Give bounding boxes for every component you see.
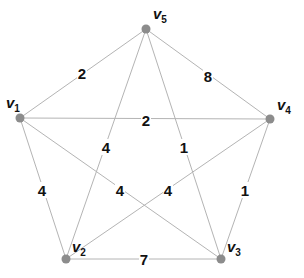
vertex-v1 <box>16 114 25 123</box>
edge-weight-v5-v4: 8 <box>204 68 212 85</box>
edge-weight-v2-v3: 7 <box>140 251 148 268</box>
edge-weight-v5-v2: 4 <box>102 139 111 156</box>
edge-weight-v1-v2: 4 <box>38 182 47 199</box>
edge-weight-v4-v2: 4 <box>164 182 173 199</box>
edge-layer <box>20 29 270 259</box>
edge-weight-v4-v3: 1 <box>241 182 249 199</box>
edge-weight-v1-v3: 4 <box>116 182 125 199</box>
vertex-layer <box>16 25 275 264</box>
vertex-label-layer: v1v2v3v4v5 <box>6 5 291 258</box>
weight-label-layer: 2824144417 <box>37 65 250 268</box>
vertex-label-v4: v4 <box>277 96 291 116</box>
vertex-label-v5: v5 <box>153 5 167 25</box>
vertex-v3 <box>217 255 226 264</box>
vertex-v4 <box>266 115 275 124</box>
vertex-v5 <box>142 25 151 34</box>
edge-weight-v1-v5: 2 <box>78 65 86 82</box>
vertex-label-v2: v2 <box>72 238 86 258</box>
vertex-label-v3: v3 <box>227 238 241 258</box>
weighted-graph: 2824144417 v1v2v3v4v5 <box>0 0 304 278</box>
edge-weight-v5-v3: 1 <box>180 139 188 156</box>
edge-weight-v1-v4: 2 <box>142 112 150 129</box>
vertex-label-v1: v1 <box>6 94 20 114</box>
vertex-v2 <box>62 255 71 264</box>
